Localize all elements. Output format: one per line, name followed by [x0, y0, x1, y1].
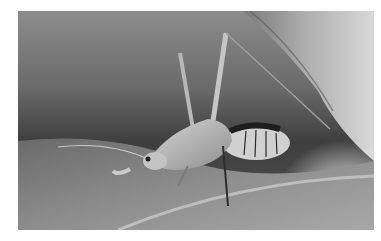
photo-canvas: [18, 11, 374, 230]
katydid-photo: [18, 11, 374, 230]
eye: [146, 157, 151, 162]
